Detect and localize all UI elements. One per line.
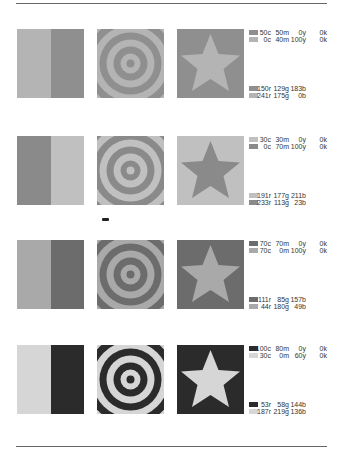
value-c: 70c xyxy=(260,240,271,247)
value-g: 129g xyxy=(273,85,289,92)
legend-entry: 150r129g183b xyxy=(249,85,329,92)
split-square xyxy=(17,345,84,414)
rings-graphic xyxy=(97,240,164,309)
value-m: 70m xyxy=(275,143,289,150)
color-swatch xyxy=(249,402,258,407)
rgb-legend: 191r177g211b233r113g23b xyxy=(249,192,329,206)
value-c: 0c xyxy=(264,143,271,150)
rings-graphic xyxy=(97,345,164,414)
value-g: 85g xyxy=(277,296,289,303)
split-left xyxy=(17,136,51,205)
color-swatch xyxy=(249,297,258,302)
value-c: 70c xyxy=(260,247,271,254)
cmyk-legend: 100c80m0y0k30c0m60y0k xyxy=(249,345,329,359)
value-y: 60y xyxy=(295,352,306,359)
color-swatch xyxy=(249,30,258,35)
value-r: 233r xyxy=(257,199,271,206)
bottom-rule xyxy=(16,446,327,447)
cmyk-legend: 50c50m0y0k0c40m100y0k xyxy=(249,29,329,43)
color-swatch xyxy=(249,304,258,309)
value-r: 150r xyxy=(257,85,271,92)
value-g: 177g xyxy=(273,192,289,199)
value-k: 0k xyxy=(320,352,327,359)
value-y: 0y xyxy=(299,345,306,352)
value-y: 0y xyxy=(299,240,306,247)
rings-graphic xyxy=(97,136,164,205)
split-square xyxy=(17,240,84,309)
value-b: 157b xyxy=(290,296,306,303)
value-y: 100y xyxy=(291,247,306,254)
concentric-rings-square xyxy=(97,136,164,205)
legend-entry: 30c30m0y0k xyxy=(249,136,329,143)
star-icon xyxy=(177,29,244,98)
value-r: 241r xyxy=(257,92,271,99)
value-b: 183b xyxy=(290,85,306,92)
legend-entry: 70c0m100y0k xyxy=(249,247,329,254)
value-k: 0k xyxy=(320,247,327,254)
value-m: 0m xyxy=(279,352,289,359)
value-m: 0m xyxy=(279,247,289,254)
star-square xyxy=(177,240,244,309)
value-b: 49b xyxy=(294,303,306,310)
value-k: 0k xyxy=(320,143,327,150)
concentric-rings-square xyxy=(97,345,164,414)
split-right xyxy=(51,29,85,98)
value-g: 180g xyxy=(273,303,289,310)
sample-row: 70c70m0y0k70c0m100y0k111r85g157b44r180g4… xyxy=(0,240,351,310)
rgb-legend: 111r85g157b44r180g49b xyxy=(249,296,329,310)
value-c: 50c xyxy=(260,29,271,36)
split-square xyxy=(17,136,84,205)
star-square xyxy=(177,29,244,98)
value-b: 211b xyxy=(291,192,306,199)
legend-entry: 100c80m0y0k xyxy=(249,345,329,352)
value-y: 100y xyxy=(291,143,306,150)
split-left xyxy=(17,240,51,309)
value-b: 144b xyxy=(290,401,306,408)
value-k: 0k xyxy=(320,240,327,247)
legend-entry: 50c50m0y0k xyxy=(249,29,329,36)
value-b: 23b xyxy=(294,199,306,206)
legend-entry: 111r85g157b xyxy=(249,296,329,303)
legend-entry: 70c70m0y0k xyxy=(249,240,329,247)
sample-row: 100c80m0y0k30c0m60y0k53r58g144b187r219g1… xyxy=(0,345,351,415)
concentric-rings-square xyxy=(97,240,164,309)
split-right xyxy=(51,240,85,309)
value-r: 44r xyxy=(261,303,271,310)
star-icon xyxy=(177,240,244,309)
cmyk-legend: 70c70m0y0k70c0m100y0k xyxy=(249,240,329,254)
value-k: 0k xyxy=(320,136,327,143)
value-y: 0y xyxy=(299,136,306,143)
value-r: 187r xyxy=(257,408,271,415)
legend-entry: 191r177g211b xyxy=(249,192,329,199)
concentric-rings-square xyxy=(97,29,164,98)
value-g: 113g xyxy=(274,199,289,206)
stray-mark xyxy=(102,218,109,221)
color-swatch xyxy=(249,37,258,42)
color-swatch xyxy=(249,144,258,149)
value-b: 136b xyxy=(290,408,306,415)
value-r: 111r xyxy=(258,296,271,303)
value-c: 30c xyxy=(260,136,271,143)
split-square xyxy=(17,29,84,98)
value-c: 30c xyxy=(260,352,271,359)
value-y: 100y xyxy=(291,36,306,43)
value-k: 0k xyxy=(320,36,327,43)
value-k: 0k xyxy=(320,29,327,36)
value-g: 175g xyxy=(273,92,289,99)
value-m: 80m xyxy=(275,345,289,352)
value-m: 40m xyxy=(275,36,289,43)
value-r: 53r xyxy=(261,401,271,408)
legend-entry: 233r113g23b xyxy=(249,199,329,206)
value-m: 30m xyxy=(275,136,289,143)
value-m: 50m xyxy=(275,29,289,36)
color-swatch xyxy=(249,137,258,142)
legend-entry: 187r219g136b xyxy=(249,408,329,415)
split-left xyxy=(17,345,51,414)
legend-entry: 241r175g0b xyxy=(249,92,329,99)
color-swatch xyxy=(249,241,258,246)
value-c: 100c xyxy=(256,345,271,352)
value-b: 0b xyxy=(298,92,306,99)
color-swatch xyxy=(249,248,258,253)
legend-entry: 0c70m100y0k xyxy=(249,143,329,150)
value-c: 0c xyxy=(264,36,271,43)
